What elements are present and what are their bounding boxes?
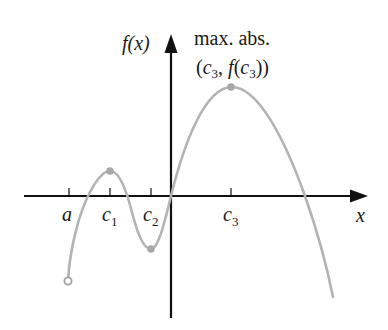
tick-label-c3: c3 — [223, 203, 238, 229]
tick-label-c2: c2 — [143, 203, 158, 229]
annotation-max-abs: max. abs. — [194, 27, 270, 49]
y-axis-label: f(x) — [122, 32, 150, 55]
tick-label-c1: c1 — [102, 203, 117, 229]
function-graph: f(x) x max. abs. (c3, f(c3)) a c1 c2 c3 — [0, 0, 388, 330]
x-axis-arrow-icon — [350, 190, 368, 203]
annotation-point: (c3, f(c3)) — [196, 56, 269, 81]
left-endpoint-open-circle — [64, 277, 71, 284]
function-curve — [68, 87, 333, 297]
local-max-point-c1 — [106, 167, 114, 175]
x-axis — [24, 190, 368, 203]
x-axis-label: x — [355, 204, 365, 226]
tick-label-a: a — [62, 203, 72, 225]
y-axis-arrow-icon — [165, 34, 178, 53]
tick-marks — [69, 188, 231, 196]
absolute-max-point-c3 — [227, 83, 235, 91]
local-min-point-c2 — [147, 245, 155, 253]
